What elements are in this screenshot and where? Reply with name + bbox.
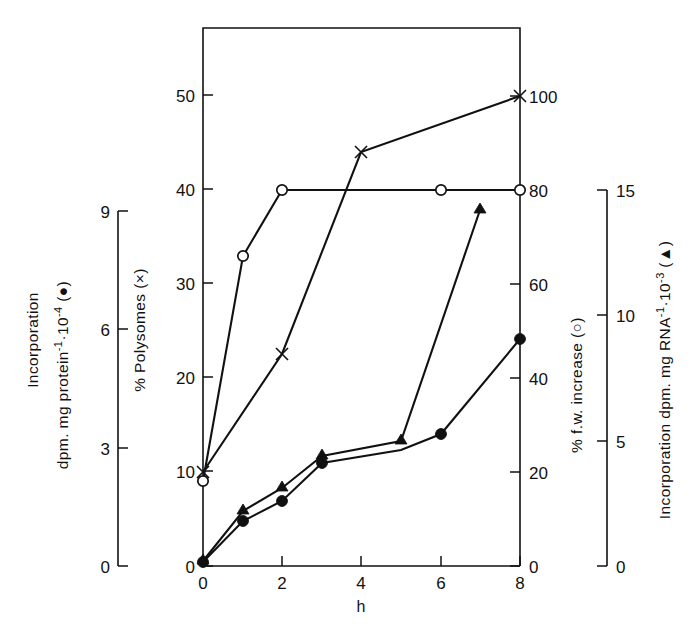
marker-triangle-7 xyxy=(474,203,486,213)
protein-ticklabel-3: 3 xyxy=(101,440,110,459)
x-ticklabel-6: 6 xyxy=(436,574,445,593)
marker-triangle-5 xyxy=(395,434,407,444)
protein-ticklabel-0: 0 xyxy=(101,558,110,577)
fw-ticklabel-100: 100 xyxy=(529,88,557,107)
marker-open-circle-2 xyxy=(277,185,287,195)
marker-triangle-3 xyxy=(316,449,328,459)
figure-container: 0 2 4 6 8 h 0 10 20 30 40 50 % Polysomes… xyxy=(0,0,696,634)
outer-left-axis-title-line2: dpm. mg protein-1·10-4 (●) xyxy=(52,281,71,469)
frame-box xyxy=(203,28,520,566)
series-fw-increase xyxy=(198,185,525,486)
protein-ticklabel-6: 6 xyxy=(101,321,110,340)
fw-ticklabel-0: 0 xyxy=(529,558,538,577)
protein-title-sup2: -4 xyxy=(52,306,64,317)
inner-right-axis: 0 20 40 60 80 100 % f.w. increase (○) xyxy=(510,88,585,577)
polysomes-ticklabel-40: 40 xyxy=(176,181,195,200)
fw-ticklabel-60: 60 xyxy=(529,276,548,295)
marker-open-circle-0 xyxy=(198,476,208,486)
polysomes-ticklabel-50: 50 xyxy=(176,87,195,106)
inner-left-axis: 0 10 20 30 40 50 % Polysomes (×) xyxy=(131,87,213,577)
outer-right-axis-title: Incorporation dpm. mg RNA-1·10-3 (▲) xyxy=(654,241,673,519)
rna-title-sup1: -1 xyxy=(654,307,666,318)
rna-title-post: (▲) xyxy=(656,241,673,273)
rna-title-pre: Incorporation dpm. mg RNA xyxy=(656,317,673,519)
marker-open-circle-1 xyxy=(238,251,248,261)
marker-cross-2 xyxy=(276,348,288,360)
series-protein-incorporation xyxy=(198,334,526,568)
marker-triangle-2 xyxy=(276,481,288,491)
marker-filled-circle-2 xyxy=(277,496,288,507)
protein-ticklabel-9: 9 xyxy=(101,203,110,222)
x-ticklabel-0: 0 xyxy=(198,574,207,593)
chart-svg: 0 2 4 6 8 h 0 10 20 30 40 50 % Polysomes… xyxy=(0,0,696,634)
plot-frame xyxy=(203,28,520,566)
marker-cross-4 xyxy=(355,146,367,158)
outer-left-axis: 9 6 3 0 Incorporation dpm. mg protein-1·… xyxy=(24,203,128,577)
rna-title-mid: ·10 xyxy=(656,283,673,307)
inner-right-axis-title: % f.w. increase (○) xyxy=(568,317,585,453)
protein-title-sup1: -1 xyxy=(52,341,64,352)
polysomes-ticklabel-20: 20 xyxy=(176,369,195,388)
rna-title-sup2: -3 xyxy=(654,272,666,283)
rna-ticklabel-10: 10 xyxy=(616,307,635,326)
series-protein-line xyxy=(203,339,520,562)
marker-open-circle-8 xyxy=(515,185,525,195)
marker-open-circle-6 xyxy=(436,185,446,195)
x-ticklabel-8: 8 xyxy=(515,574,524,593)
protein-title-post: (●) xyxy=(54,281,71,307)
polysomes-ticklabel-10: 10 xyxy=(176,463,195,482)
polysomes-ticklabel-30: 30 xyxy=(176,275,195,294)
marker-filled-circle-6 xyxy=(436,429,447,440)
x-axis: 0 2 4 6 8 h xyxy=(198,556,524,615)
series-polysomes xyxy=(197,90,526,478)
marker-filled-circle-8 xyxy=(515,334,526,345)
rna-ticklabel-15: 15 xyxy=(616,182,635,201)
protein-title-mid: ·10 xyxy=(54,317,71,341)
rna-ticklabel-5: 5 xyxy=(616,433,625,452)
protein-title-pre: dpm. mg protein xyxy=(54,351,71,469)
outer-left-axis-title-line1: Incorporation xyxy=(24,292,41,388)
x-axis-label: h xyxy=(357,598,366,615)
outer-right-axis: 15 10 5 0 Incorporation dpm. mg RNA-1·10… xyxy=(597,182,673,577)
fw-ticklabel-80: 80 xyxy=(529,182,548,201)
rna-ticklabel-0: 0 xyxy=(616,558,625,577)
fw-ticklabel-40: 40 xyxy=(529,370,548,389)
x-ticklabel-4: 4 xyxy=(356,574,365,593)
fw-ticklabel-20: 20 xyxy=(529,464,548,483)
x-ticklabel-2: 2 xyxy=(277,574,286,593)
inner-left-axis-title: % Polysomes (×) xyxy=(131,268,148,392)
polysomes-ticklabel-0: 0 xyxy=(186,558,195,577)
